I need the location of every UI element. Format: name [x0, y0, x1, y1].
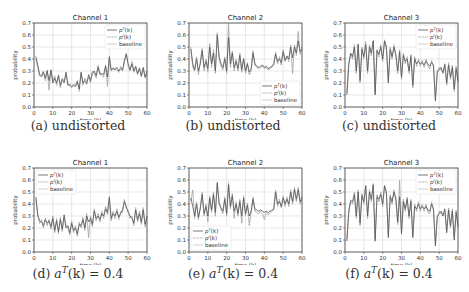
legend-pT-label: pT(k)	[429, 26, 443, 34]
y-tick-label: 0.6	[22, 32, 31, 38]
x-tick-label: 50	[280, 110, 287, 116]
legend-pT-label: pT(k)	[204, 227, 218, 235]
y-tick-label: 0.1	[333, 237, 342, 243]
x-tick-label: 40	[417, 255, 424, 261]
chart-f: 0.00.10.20.30.40.50.60.70102030405060Cha…	[311, 145, 467, 265]
legend-baseline-label: baseline	[430, 41, 454, 47]
legend-pT-label: pT(k)	[429, 171, 443, 179]
x-tick-label: 50	[125, 255, 132, 261]
y-tick-label: 0.3	[177, 213, 186, 219]
y-tick-label: 0.5	[22, 189, 31, 195]
y-tick-label: 0.3	[177, 68, 186, 74]
legend-baseline-label: baseline	[119, 41, 143, 47]
y-tick-label: 0.3	[22, 68, 31, 74]
y-axis-label: probability	[323, 195, 330, 225]
y-tick-label: 0.0	[177, 249, 186, 255]
legend: pT(k)pI(k)baseline	[191, 226, 231, 250]
x-tick-label: 10	[49, 110, 56, 116]
chart-title: Channel 1	[73, 159, 108, 167]
y-tick-label: 0.7	[22, 165, 31, 171]
y-tick-label: 0.2	[333, 225, 342, 231]
x-tick-label: 30	[398, 110, 405, 116]
x-tick-label: 20	[379, 110, 386, 116]
legend-pI-label: pI(k)	[429, 178, 442, 186]
y-tick-label: 0.1	[177, 92, 186, 98]
y-tick-label: 0.5	[177, 44, 186, 50]
y-tick-label: 0.0	[22, 249, 31, 255]
x-tick-label: 60	[455, 255, 462, 261]
y-tick-label: 0.6	[177, 177, 186, 183]
x-tick-label: 50	[436, 255, 443, 261]
chart-c: 0.00.10.20.30.40.50.60.70102030405060Cha…	[311, 0, 467, 120]
legend-pT-label: pT(k)	[273, 82, 287, 90]
x-tick-label: 60	[144, 255, 151, 261]
x-tick-label: 20	[223, 110, 230, 116]
chart-title: Channel 1	[73, 14, 108, 22]
caption-d: (d) aT(k) = 0.4	[0, 263, 156, 281]
chart-title: Channel 2	[228, 14, 263, 22]
chart-title: Channel 3	[384, 14, 419, 22]
x-tick-label: 40	[417, 110, 424, 116]
legend-pI-label: pI(k)	[273, 89, 286, 97]
chart-a: 0.00.10.20.30.40.50.60.70102030405060Cha…	[0, 0, 156, 120]
panel-f: 0.00.10.20.30.40.50.60.70102030405060Cha…	[311, 145, 467, 291]
y-tick-label: 0.2	[333, 80, 342, 86]
y-tick-label: 0.4	[333, 56, 342, 62]
y-tick-label: 0.7	[333, 20, 342, 26]
x-tick-label: 10	[360, 110, 367, 116]
y-tick-label: 0.1	[22, 237, 31, 243]
legend: pT(k)pI(k)baseline	[416, 170, 456, 194]
legend: pT(k)pI(k)baseline	[260, 81, 300, 105]
x-tick-label: 60	[144, 110, 151, 116]
legend-baseline-label: baseline	[205, 242, 229, 248]
panel-e: 0.00.10.20.30.40.50.60.70102030405060Cha…	[155, 145, 311, 291]
axes: 0.00.10.20.30.40.50.60.70102030405060Cha…	[167, 159, 306, 265]
y-tick-label: 0.6	[177, 32, 186, 38]
y-tick-label: 0.0	[177, 104, 186, 110]
x-tick-label: 60	[455, 110, 462, 116]
x-tick-label: 40	[106, 110, 113, 116]
chart-e: 0.00.10.20.30.40.50.60.70102030405060Cha…	[155, 145, 311, 265]
x-tick-label: 60	[299, 255, 306, 261]
legend-pT-label: pT(k)	[49, 171, 63, 179]
x-tick-label: 0	[343, 255, 347, 261]
y-tick-label: 0.7	[333, 165, 342, 171]
x-tick-label: 60	[299, 110, 306, 116]
x-tick-label: 40	[261, 255, 268, 261]
y-tick-label: 0.5	[177, 189, 186, 195]
caption-f: (f) aT(k) = 0.4	[311, 263, 467, 281]
x-tick-label: 30	[242, 255, 249, 261]
caption-c: (c) undistorted	[311, 118, 467, 133]
chart-title: Channel 2	[228, 159, 263, 167]
legend: pT(k)pI(k)baseline	[416, 25, 456, 49]
x-tick-label: 20	[379, 255, 386, 261]
caption-e: (e) aT(k) = 0.4	[155, 263, 311, 281]
panel-a: 0.00.10.20.30.40.50.60.70102030405060Cha…	[0, 0, 156, 146]
legend-pI-label: pI(k)	[429, 33, 442, 41]
y-axis-label: probability	[12, 195, 19, 225]
y-tick-label: 0.4	[177, 56, 186, 62]
caption-b: (b) undistorted	[155, 118, 311, 133]
x-tick-label: 20	[68, 255, 75, 261]
legend-pI-label: pI(k)	[204, 234, 217, 242]
y-tick-label: 0.4	[22, 56, 31, 62]
panel-c: 0.00.10.20.30.40.50.60.70102030405060Cha…	[311, 0, 467, 146]
x-tick-label: 50	[280, 255, 287, 261]
x-tick-label: 50	[125, 110, 132, 116]
legend-baseline-label: baseline	[430, 186, 454, 192]
x-tick-label: 30	[87, 255, 94, 261]
x-tick-label: 30	[398, 255, 405, 261]
y-tick-label: 0.7	[177, 20, 186, 26]
y-tick-label: 0.1	[22, 92, 31, 98]
legend: pT(k)pI(k)baseline	[105, 25, 145, 49]
caption-a: (a) undistorted	[0, 118, 156, 133]
x-tick-label: 10	[49, 255, 56, 261]
x-tick-label: 0	[32, 110, 36, 116]
x-tick-label: 40	[261, 110, 268, 116]
x-tick-label: 30	[87, 110, 94, 116]
y-axis-label: probability	[12, 50, 19, 80]
x-tick-label: 10	[360, 255, 367, 261]
y-axis-label: probability	[167, 195, 174, 225]
x-tick-label: 40	[106, 255, 113, 261]
y-tick-label: 0.4	[177, 201, 186, 207]
